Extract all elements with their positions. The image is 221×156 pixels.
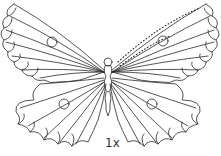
left-hindwing-icon (16, 78, 106, 146)
scale-label: 1x (105, 136, 120, 150)
butterfly-illustration (0, 0, 221, 156)
right-hindwing-icon (110, 78, 200, 146)
left-forewing-icon (1, 4, 104, 83)
right-forewing-icon (112, 4, 219, 83)
